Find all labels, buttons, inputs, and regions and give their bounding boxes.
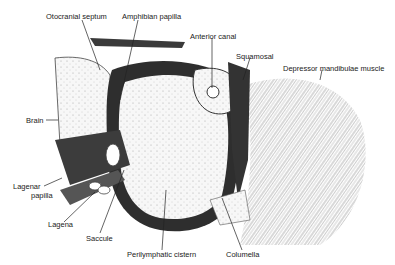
label-saccule: Saccule bbox=[86, 234, 113, 243]
dorsal-bone bbox=[90, 38, 185, 48]
label-amphibian-papilla: Amphibian papilla bbox=[122, 12, 181, 21]
diagram-canvas: Otocranial septum Amphibian papilla Ante… bbox=[0, 0, 395, 265]
label-otocranial-septum: Otocranial septum bbox=[46, 12, 107, 21]
label-lagenar-papilla-line1: Lagenar bbox=[13, 182, 41, 191]
label-columella: Columella bbox=[226, 250, 259, 259]
label-lagena: Lagena bbox=[48, 220, 73, 229]
label-perilymphatic-cistern: Perilymphatic cistern bbox=[127, 250, 196, 259]
label-anterior-canal: Anterior canal bbox=[190, 32, 236, 41]
brain-region bbox=[55, 57, 112, 145]
label-brain: Brain bbox=[26, 116, 44, 125]
label-depressor-mandibulae-muscle: Depressor mandibulae muscle bbox=[283, 64, 384, 73]
saccule-shape bbox=[106, 144, 120, 166]
label-squamosal: Squamosal bbox=[236, 52, 274, 61]
depressor-mandibulae-muscle-region bbox=[240, 78, 366, 245]
label-lagenar-papilla-line2: papilla bbox=[31, 191, 53, 200]
